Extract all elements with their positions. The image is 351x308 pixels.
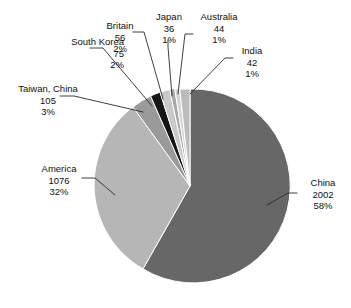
slice-label-america: America 1076 32% (28, 163, 90, 198)
slice-label-india: India 42 1% (228, 45, 276, 80)
slice-label-south-korea-percent: 2% (36, 59, 124, 71)
slice-label-japan-percent: 1% (150, 34, 188, 46)
slice-label-india-name: India (228, 45, 276, 57)
slice-label-britain-value: 56 (96, 32, 144, 44)
slice-label-taiwan-china: Taiwan, China 105 3% (6, 83, 90, 118)
slice-label-japan-value: 36 (150, 23, 188, 35)
slice-label-taiwan-china-value: 105 (6, 95, 90, 107)
slice-label-india-percent: 1% (228, 68, 276, 80)
slice-label-china: China 2002 58% (300, 177, 346, 212)
slice-label-america-percent: 32% (28, 186, 90, 198)
slice-label-america-name: America (28, 163, 90, 175)
slice-label-australia-name: Australia (190, 11, 248, 23)
pie-chart-figure: South Korea 75 2% Britain 56 2% Japan 36… (0, 0, 351, 308)
slice-label-america-value: 1076 (28, 175, 90, 187)
slice-label-china-value: 2002 (300, 189, 346, 201)
slice-label-australia: Australia 44 1% (190, 11, 248, 46)
slice-label-britain-percent: 2% (96, 43, 144, 55)
slice-label-taiwan-china-name: Taiwan, China (6, 83, 90, 95)
slice-label-china-name: China (300, 177, 346, 189)
leader-line-japan (168, 40, 172, 96)
slice-label-australia-value: 44 (190, 23, 248, 35)
slice-label-japan: Japan 36 1% (150, 11, 188, 46)
slice-label-britain: Britain 56 2% (96, 20, 144, 55)
slice-label-australia-percent: 1% (190, 34, 248, 46)
slice-label-taiwan-china-percent: 3% (6, 106, 90, 118)
slice-label-britain-name: Britain (96, 20, 144, 32)
slice-label-india-value: 42 (228, 57, 276, 69)
slice-label-japan-name: Japan (150, 11, 188, 23)
pie-slices (94, 89, 290, 283)
slice-label-china-percent: 58% (300, 200, 346, 212)
